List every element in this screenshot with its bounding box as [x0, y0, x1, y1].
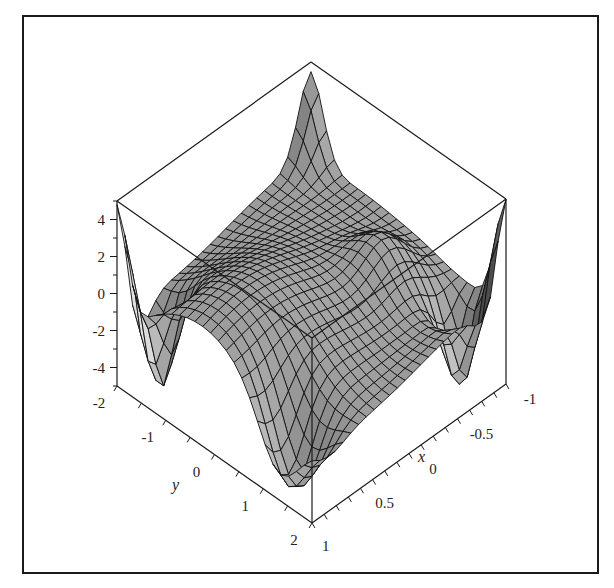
z-tick-label: 4	[98, 212, 106, 228]
z-tick-label: 0	[98, 286, 106, 302]
z-tick-label: -2	[93, 323, 106, 339]
surface-plot-3d: 420-2-4-2-1012-1-0.500.51 x y	[0, 0, 614, 588]
x-tick-label: 0.5	[375, 495, 394, 511]
x-tick-label: -0.5	[470, 426, 494, 442]
z-tick-label: -4	[93, 360, 106, 376]
y-tick-label: -1	[142, 429, 155, 445]
y-tick-label: 1	[242, 498, 250, 514]
y-tick-label: 0	[193, 464, 201, 480]
x-tick-label: 1	[322, 538, 330, 554]
y-tick-label: -2	[93, 395, 106, 411]
y-tick-label: 2	[290, 532, 298, 548]
x-axis-title: x	[417, 448, 425, 465]
x-tick-label: 0	[429, 461, 437, 477]
y-axis-title: y	[170, 476, 180, 494]
z-tick-label: 2	[98, 249, 106, 265]
x-tick-label: -1	[524, 391, 537, 407]
